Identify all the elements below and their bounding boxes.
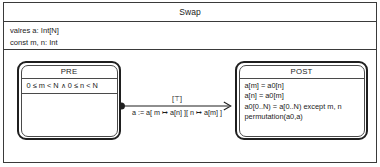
state-line: a0[0..N) = a[0..N) except m, n — [245, 102, 364, 113]
module-title-bar: Swap — [4, 3, 376, 22]
state-name-post: POST — [240, 66, 364, 79]
state-inner-frame: PRE 0 ≤ m < N ∧ 0 ≤ n < N — [21, 65, 118, 137]
state-empty-compartment-pre — [22, 94, 117, 98]
diagram-canvas: Swap valres a: Int[N] const m, n: Int [⊤… — [0, 0, 380, 167]
state-line: permutation(a0,a) — [245, 112, 364, 123]
state-line: 0 ≤ m < N ∧ 0 ≤ n < N — [27, 81, 117, 92]
state-line: a[n] = a0[m] — [245, 91, 364, 102]
declarations-compartment: valres a: Int[N] const m, n: Int — [4, 22, 376, 50]
module-frame: Swap valres a: Int[N] const m, n: Int [⊤… — [3, 2, 377, 163]
transition-guard-label: [⊤] — [122, 94, 232, 103]
state-node-pre[interactable]: PRE 0 ≤ m < N ∧ 0 ≤ n < N — [17, 61, 121, 140]
state-constraints-post: a[m] = a0[n] a[n] = a0[m] a0[0..N) = a[0… — [240, 79, 364, 125]
declaration-line: const m, n: Int — [10, 37, 376, 49]
state-inner-frame: POST a[m] = a0[n] a[n] = a0[m] a0[0..N) … — [239, 65, 365, 137]
page-title: Swap — [179, 7, 201, 17]
state-node-post[interactable]: POST a[m] = a0[n] a[n] = a0[m] a0[0..N) … — [235, 61, 368, 140]
transition-action-label: a := a[ m ↦ a[n] ][ n ↦ a[m] ] — [112, 108, 242, 117]
diagram-body: [⊤] a := a[ m ↦ a[n] ][ n ↦ a[m] ] PRE 0… — [4, 50, 376, 162]
state-constraints-pre: 0 ≤ m < N ∧ 0 ≤ n < N — [22, 79, 117, 95]
state-line: a[m] = a0[n] — [245, 81, 364, 92]
state-name-pre: PRE — [22, 66, 117, 79]
declaration-line: valres a: Int[N] — [10, 25, 376, 37]
